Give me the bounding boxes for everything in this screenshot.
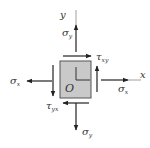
sigma-subscript: y: [89, 131, 92, 138]
x-axis-label: x: [140, 70, 146, 80]
sigma-symbol: σ: [62, 27, 69, 38]
sigma-x-right-label: σx: [118, 84, 128, 97]
stress-element-diagram: [0, 0, 150, 148]
tau-yx-label: τyx: [46, 101, 58, 114]
tau-xy-label: τxy: [96, 52, 108, 65]
tau-subscript: xy: [102, 56, 109, 63]
sigma-subscript: y: [69, 32, 72, 39]
sigma-symbol: σ: [82, 126, 89, 137]
sigma-symbol: σ: [118, 83, 125, 94]
sigma-subscript: x: [125, 88, 128, 95]
y-axis-label: y: [60, 10, 66, 20]
sigma-symbol: σ: [10, 75, 17, 86]
tau-subscript: yx: [52, 105, 59, 112]
sigma-y-bottom-label: σy: [82, 127, 92, 140]
origin-label: O: [65, 84, 74, 94]
sigma-x-left-label: σx: [10, 76, 20, 89]
sigma-y-top-label: σy: [62, 28, 72, 41]
sigma-subscript: x: [17, 80, 20, 87]
